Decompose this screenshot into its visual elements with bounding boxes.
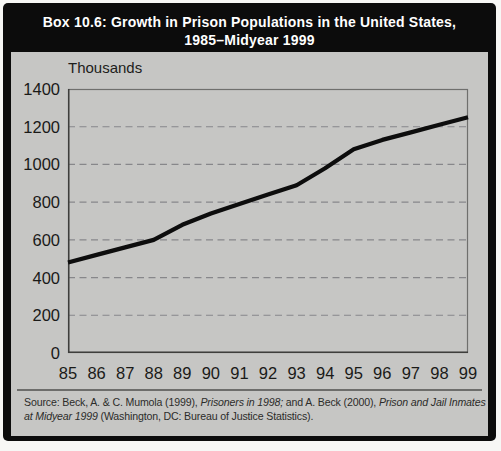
source-text-prefix: Source: Beck, A. & C. Mumola (1999), xyxy=(24,396,200,408)
source-text-middle: and A. Beck (2000), xyxy=(283,396,379,408)
y-tick-label-600: 600 xyxy=(0,231,60,249)
source-divider-rule xyxy=(17,389,482,391)
y-tick-label-1200: 1200 xyxy=(0,118,60,136)
figure-title: Box 10.6: Growth in Prison Populations i… xyxy=(14,14,485,54)
prison-population-data-line xyxy=(68,117,468,262)
chart-panel: Thousands 0200400600800100012001400 8586… xyxy=(11,52,488,436)
y-tick-label-800: 800 xyxy=(0,193,60,211)
y-tick-label-1000: 1000 xyxy=(0,155,60,173)
figure-title-line2: 1985–Midyear 1999 xyxy=(14,32,485,50)
plot-frame xyxy=(69,90,468,353)
y-tick-label-0: 0 xyxy=(0,344,60,362)
figure-frame: Box 10.6: Growth in Prison Populations i… xyxy=(3,3,496,441)
y-tick-label-200: 200 xyxy=(0,306,60,324)
scanned-textbook-figure: Box 10.6: Growth in Prison Populations i… xyxy=(0,0,501,451)
source-text-suffix: (Washington, DC: Bureau of Justice Stati… xyxy=(98,410,314,422)
x-tick-label-99: 99 xyxy=(451,364,485,382)
source-work-title-1: Prisoners in 1998; xyxy=(200,396,283,408)
prison-population-line-chart xyxy=(68,89,468,353)
y-tick-label-1400: 1400 xyxy=(0,80,60,98)
source-note: Source: Beck, A. & C. Mumola (1999), Pri… xyxy=(24,396,486,423)
y-axis-unit-label: Thousands xyxy=(68,59,142,76)
y-tick-label-400: 400 xyxy=(0,269,60,287)
figure-title-line1: Box 10.6: Growth in Prison Populations i… xyxy=(14,14,485,32)
